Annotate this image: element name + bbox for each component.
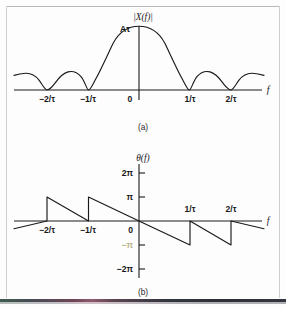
phase-ytick-zero: 0: [128, 225, 133, 235]
phase-ytick-negpi: −π: [121, 240, 133, 250]
phase-spectrum-plot: θ(f) f 2π π 0 −π −2π −2/τ −1/τ 1/τ 2/τ: [0, 150, 286, 288]
figure-frame: |X(f)| f Aτ −2/τ −1/τ 0 1/τ 2/τ (a) θ(f)…: [0, 0, 286, 309]
magnitude-x-axis-label: f: [267, 84, 271, 95]
phase-x-axis-label: f: [267, 215, 271, 226]
magnitude-xtick-neg2: −2/τ: [39, 94, 55, 104]
phase-xtick-neg2: −2/τ: [39, 225, 55, 235]
phase-ytick-neg2pi: −2π: [117, 264, 134, 274]
phase-xtick-pos2: 2/τ: [225, 204, 236, 214]
magnitude-xtick-neg1: −1/τ: [80, 94, 96, 104]
magnitude-xtick-pos2: 2/τ: [225, 94, 236, 104]
phase-plot-title: θ(f): [136, 153, 149, 164]
phase-ytick-pi: π: [126, 192, 133, 202]
magnitude-xtick-zero: 0: [128, 94, 133, 104]
magnitude-plot-title: |X(f)|: [133, 12, 153, 23]
figure-caption-a: (a): [0, 122, 286, 132]
magnitude-xtick-pos1: 1/τ: [184, 94, 195, 104]
phase-xtick-neg1: −1/τ: [80, 225, 96, 235]
phase-xtick-pos1: 1/τ: [184, 204, 195, 214]
frame-top-rule: [6, 6, 280, 7]
figure-caption-b: (b): [0, 287, 286, 297]
phase-ytick-2pi: 2π: [122, 168, 134, 178]
magnitude-spectrum-plot: |X(f)| f Aτ −2/τ −1/τ 0 1/τ 2/τ: [0, 8, 286, 120]
bottom-accent-bar-secondary: [0, 302, 286, 304]
